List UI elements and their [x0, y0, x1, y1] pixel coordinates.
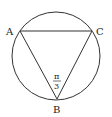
label-c: C: [96, 26, 104, 37]
label-a: A: [5, 26, 14, 37]
geometry-figure: A C B π 3: [0, 0, 112, 117]
angle-numerator: π: [54, 72, 59, 81]
angle-denominator: 3: [54, 82, 59, 91]
label-b: B: [53, 104, 60, 115]
